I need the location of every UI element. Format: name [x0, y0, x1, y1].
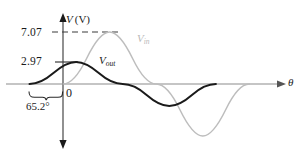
x-axis — [6, 80, 286, 87]
y-axis-arrowhead-down — [59, 140, 66, 149]
curve-label-v-in-base: V — [137, 32, 144, 44]
y-tick-label-2-97: 2.97 — [21, 56, 42, 68]
phase-shift-label: 65.2° — [26, 101, 50, 112]
curve-label-v-out-sub: out — [106, 59, 116, 68]
y-axis-title-symbol: V — [66, 13, 73, 25]
curve-label-v-out-base: V — [99, 54, 106, 66]
curve-label-v-in-sub: in — [144, 37, 150, 46]
x-axis-arrowhead — [277, 80, 286, 87]
origin-label: 0 — [66, 87, 72, 99]
y-tick-label-7-07: 7.07 — [21, 27, 42, 39]
y-axis-title: V(V) — [66, 14, 90, 25]
x-axis-title: θ — [288, 77, 293, 88]
y-axis — [59, 13, 66, 149]
curve-label-v-out: Vout — [99, 55, 115, 66]
curve-label-v-in: Vin — [137, 33, 150, 44]
y-axis-unit: (V) — [75, 13, 90, 25]
phase-shift-brace — [29, 92, 63, 101]
sine-wave-plot — [0, 0, 299, 159]
figure-container: 7.07 2.97 V(V) θ 0 65.2° Vout Vin — [0, 0, 299, 159]
